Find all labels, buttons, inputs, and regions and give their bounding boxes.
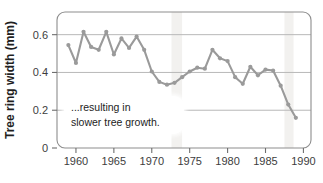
y-tick-label-0_4: 0.4 [33,66,48,78]
data-point [271,68,275,72]
data-point [135,34,139,38]
data-point [195,66,199,70]
data-point [256,73,260,77]
data-point [104,30,108,34]
x-tick-label-1970: 1970 [140,155,164,167]
callout-line-2: slower tree growth. [71,116,160,128]
data-point [172,81,176,85]
data-point [142,48,146,52]
data-point [279,84,283,88]
x-tick-label-1965: 1965 [102,155,126,167]
tree-ring-width-line-chart: ...resulting in slower tree growth. 1960… [0,0,323,183]
data-point [180,75,184,79]
x-tick-label-1960: 1960 [64,155,88,167]
x-tick-label-1985: 1985 [253,155,277,167]
data-point [203,67,207,71]
chart-figure: ...resulting in slower tree growth. 1960… [0,0,323,183]
data-point [241,82,245,86]
data-point [218,56,222,60]
data-point [89,45,93,49]
data-point [294,116,298,120]
data-point [233,75,237,79]
data-point [81,30,85,34]
y-tick-label-0: 0 [42,142,48,154]
band-1988 [284,12,293,148]
data-point [226,59,230,63]
data-point [119,36,123,40]
data-point [210,48,214,52]
y-tick-label-0_2: 0.2 [33,104,48,116]
y-tick-label-0_6: 0.6 [33,29,48,41]
x-tick-label-1980: 1980 [215,155,239,167]
slower-growth-callout: ...resulting in slower tree growth. [62,94,186,136]
data-point [97,48,101,52]
data-point [188,69,192,73]
data-point [263,68,267,72]
y-axis-title: Tree ring width (mm) [3,21,17,139]
data-point [127,46,131,50]
data-point [286,102,290,106]
data-point [74,61,78,65]
data-point [248,65,252,69]
callout-line-1: ...resulting in [71,101,131,113]
x-tick-label-1975: 1975 [177,155,201,167]
data-point [165,83,169,87]
data-point [150,69,154,73]
data-point [157,80,161,84]
data-point [112,52,116,56]
x-tick-label-1990: 1990 [291,155,315,167]
data-point [66,43,70,47]
